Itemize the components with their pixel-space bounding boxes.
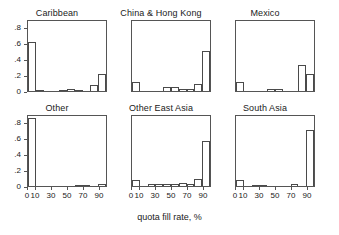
bar <box>132 180 140 186</box>
panel-other-east-asia: Other East Asia01030507090 <box>109 103 213 198</box>
x-tick-mark <box>83 187 84 190</box>
panel-south-asia: South Asia01030507090 <box>213 103 317 198</box>
bar-series <box>236 21 314 91</box>
x-tick-mark <box>171 187 172 190</box>
bar <box>75 90 83 92</box>
y-tick-label: 0 <box>17 88 21 96</box>
bar <box>179 183 187 186</box>
plot-area <box>27 115 107 187</box>
y-tick-mark <box>24 92 27 93</box>
x-tick-label: 10 <box>239 191 248 200</box>
x-tick-mark <box>155 187 156 190</box>
panel-title: Other <box>5 103 109 114</box>
bar <box>187 184 195 186</box>
x-tick-label: 50 <box>167 191 176 200</box>
y-tick-label: .2 <box>14 167 21 175</box>
y-tick-label: .6 <box>14 135 21 143</box>
bar <box>187 89 195 91</box>
x-tick-label: 50 <box>271 191 280 200</box>
bar <box>98 184 106 186</box>
bar <box>67 89 75 91</box>
bar-series <box>28 21 106 91</box>
x-tick-label: 70 <box>79 191 88 200</box>
panel-caribbean: Caribbean0.2.4.6.8 <box>5 8 109 103</box>
panel-title: Caribbean <box>5 8 109 19</box>
bar <box>267 89 275 91</box>
bar <box>298 65 306 91</box>
x-tick-mark <box>27 187 28 190</box>
plot-area <box>235 20 315 92</box>
panel-title: South Asia <box>213 103 317 114</box>
bar <box>171 184 179 186</box>
x-tick-mark <box>99 187 100 190</box>
x-tick-label: 90 <box>199 191 208 200</box>
y-axis: 0.2.4.6.8 <box>5 20 27 92</box>
bar <box>59 90 67 92</box>
panel-other: Other0.2.4.6.801030507090 <box>5 103 109 198</box>
plot-area <box>27 20 107 92</box>
bar <box>236 82 244 91</box>
y-tick-label: .6 <box>14 40 21 48</box>
x-tick-mark <box>67 187 68 190</box>
plot-area <box>235 115 315 187</box>
x-tick-mark <box>291 187 292 190</box>
bar <box>236 180 244 186</box>
bar-series <box>28 116 106 186</box>
x-tick-label: 0 <box>233 191 237 200</box>
plot-area <box>131 115 211 187</box>
x-tick-mark <box>35 187 36 190</box>
x-tick-mark <box>259 187 260 190</box>
y-tick-label: .2 <box>14 72 21 80</box>
bar <box>306 130 314 186</box>
panel-title: China & Hong Kong <box>109 8 213 19</box>
x-tick-mark <box>275 187 276 190</box>
histogram-figure: Caribbean0.2.4.6.8China & Hong KongMexic… <box>0 0 339 235</box>
bar <box>194 179 202 186</box>
x-tick-label: 10 <box>31 191 40 200</box>
bar <box>252 185 260 187</box>
x-tick-mark <box>203 187 204 190</box>
bar <box>98 74 106 91</box>
x-tick-mark <box>131 187 132 190</box>
bar <box>275 89 283 91</box>
panel-title: Mexico <box>213 8 317 19</box>
bar <box>132 82 140 91</box>
x-tick-label: 0 <box>25 191 29 200</box>
x-axis-caption: quota fill rate, % <box>0 212 339 223</box>
y-tick-label: .4 <box>14 151 21 159</box>
bar <box>163 87 171 91</box>
y-axis: 0.2.4.6.8 <box>5 115 27 187</box>
x-tick-mark <box>235 187 236 190</box>
bar <box>28 42 36 91</box>
bar <box>202 51 210 91</box>
bar <box>202 141 210 186</box>
bar <box>306 74 314 91</box>
bar <box>28 118 36 186</box>
y-tick-label: .8 <box>14 24 21 32</box>
bar <box>291 184 299 186</box>
panel-title: Other East Asia <box>109 103 213 114</box>
x-tick-mark <box>243 187 244 190</box>
x-axis: 01030507090 <box>235 187 315 203</box>
bar <box>83 185 91 187</box>
bar <box>90 85 98 91</box>
bar <box>171 87 179 91</box>
bar <box>163 184 171 186</box>
x-tick-mark <box>187 187 188 190</box>
panel-china-hong-kong: China & Hong Kong <box>109 8 213 103</box>
bar-series <box>132 21 210 91</box>
bar-series <box>132 116 210 186</box>
x-tick-label: 30 <box>255 191 264 200</box>
x-axis: 01030507090 <box>131 187 211 203</box>
x-tick-label: 70 <box>183 191 192 200</box>
x-tick-label: 90 <box>303 191 312 200</box>
y-tick-label: .8 <box>14 119 21 127</box>
bar <box>155 184 163 186</box>
y-tick-label: .4 <box>14 56 21 64</box>
plot-area <box>131 20 211 92</box>
panel-mexico: Mexico <box>213 8 317 103</box>
x-tick-label: 90 <box>95 191 104 200</box>
x-tick-mark <box>51 187 52 190</box>
panel-grid: Caribbean0.2.4.6.8China & Hong KongMexic… <box>0 0 339 200</box>
bar <box>179 89 187 91</box>
